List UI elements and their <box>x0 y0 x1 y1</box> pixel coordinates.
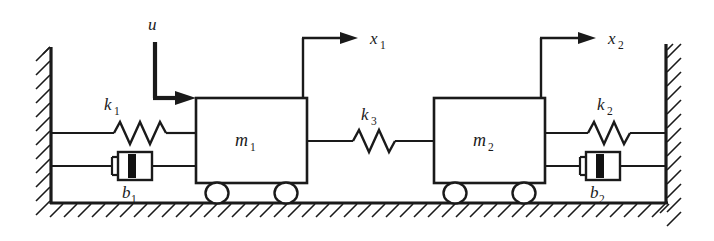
spring-k1 <box>52 122 196 144</box>
x2-symbol: x <box>607 29 616 48</box>
diagram-canvas: k 1 b 1 m 1 k 3 m <box>0 0 714 241</box>
mass-m2-wheels <box>444 183 536 204</box>
spring-k3-subscript: 3 <box>371 115 377 127</box>
arrow-head-u <box>175 91 196 105</box>
damper-b2 <box>545 152 665 180</box>
spring-k2-label: k 2 <box>597 95 613 117</box>
spring-k3-symbol: k <box>361 105 369 124</box>
damper-b1 <box>52 152 196 180</box>
wheel-m2-right <box>513 183 536 204</box>
mass-m1-subscript: 1 <box>250 141 256 153</box>
right-wall-hatching <box>667 44 681 226</box>
spring-k2-symbol: k <box>597 95 605 114</box>
left-wall-support <box>36 47 51 215</box>
spring-k2-subscript: 2 <box>607 105 613 117</box>
input-u-label: u <box>148 15 157 34</box>
right-wall-support <box>666 44 681 226</box>
mass-m1: m 1 <box>196 98 307 183</box>
x1-subscript: 1 <box>380 39 386 51</box>
reference-arrow-x2 <box>540 32 596 98</box>
input-arrow-u <box>153 42 196 105</box>
reference-arrow-x1 <box>302 32 358 98</box>
mass-m2-symbol: m <box>473 130 486 150</box>
x2-subscript: 2 <box>618 39 624 51</box>
reference-x2-label: x 2 <box>607 29 624 51</box>
mass-m2: m 2 <box>434 98 545 183</box>
mass-m1-symbol: m <box>235 130 248 150</box>
ground-hatching <box>50 204 669 217</box>
left-wall-hatching <box>36 47 50 215</box>
damper-b2-symbol: b <box>590 183 599 202</box>
damper-b1-label: b 1 <box>122 183 137 205</box>
spring-k3-label: k 3 <box>361 105 377 127</box>
damper-b1-symbol: b <box>122 183 131 202</box>
damper-b1-subscript: 1 <box>131 193 137 205</box>
arrow-head-x1 <box>340 32 358 44</box>
spring-k1-label: k 1 <box>104 95 120 117</box>
mechanical-system-diagram: k 1 b 1 m 1 k 3 m <box>0 0 714 241</box>
damper-b2-subscript: 2 <box>599 193 605 205</box>
spring-k2 <box>545 122 665 144</box>
ground-support <box>50 203 669 217</box>
mass-m1-wheels <box>206 183 298 204</box>
arrow-head-x2 <box>578 32 596 44</box>
damper-b2-label: b 2 <box>590 183 605 205</box>
x1-symbol: x <box>369 29 378 48</box>
spring-k1-symbol: k <box>104 95 112 114</box>
spring-k1-subscript: 1 <box>114 105 120 117</box>
wheel-m1-right <box>275 183 298 204</box>
wheel-m2-left <box>444 183 467 204</box>
wheel-m1-left <box>206 183 229 204</box>
spring-k3 <box>307 130 434 152</box>
mass-m2-subscript: 2 <box>488 141 494 153</box>
reference-x1-label: x 1 <box>369 29 386 51</box>
